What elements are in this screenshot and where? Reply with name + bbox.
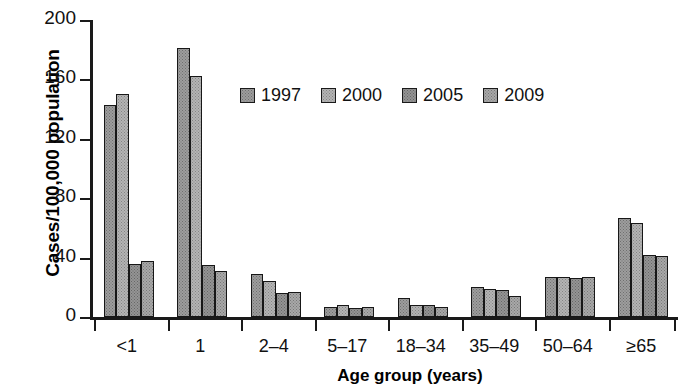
x-tick-mark xyxy=(535,320,537,331)
x-tick-mark xyxy=(609,320,611,331)
bar xyxy=(545,277,558,317)
legend-item-label: 2000 xyxy=(342,86,382,104)
bar xyxy=(177,48,190,317)
x-tick-mark xyxy=(462,320,464,331)
bar xyxy=(570,278,583,317)
y-tick-mark xyxy=(80,258,90,260)
y-tick-label: 200 xyxy=(30,7,76,29)
y-tick-label: 160 xyxy=(30,66,76,88)
legend: 1997200020052009 xyxy=(240,86,544,104)
bar xyxy=(496,290,509,317)
bar xyxy=(656,256,669,317)
legend-item: 2000 xyxy=(321,86,382,104)
bar xyxy=(643,255,656,317)
x-tick-mark xyxy=(315,320,317,331)
legend-item-label: 1997 xyxy=(261,86,301,104)
bar xyxy=(557,277,570,317)
y-tick-mark xyxy=(80,139,90,141)
y-tick-mark xyxy=(80,198,90,200)
y-tick-mark xyxy=(80,317,90,319)
legend-swatch-icon xyxy=(321,88,336,103)
bar xyxy=(484,289,497,317)
y-tick-label: 80 xyxy=(30,185,76,207)
y-tick-label: 40 xyxy=(30,245,76,267)
bar xyxy=(398,298,411,317)
bar xyxy=(104,105,117,317)
bar xyxy=(324,307,337,317)
bar xyxy=(435,307,448,317)
bar xyxy=(471,287,484,317)
y-axis-line xyxy=(90,20,93,318)
bar xyxy=(349,308,362,317)
bar-chart: Cases/100,000 population 04080120160200 … xyxy=(0,0,683,388)
y-tick-label: 120 xyxy=(30,126,76,148)
legend-item-label: 2009 xyxy=(504,86,544,104)
bar xyxy=(582,277,595,317)
bar xyxy=(129,264,142,317)
x-tick-label: 1 xyxy=(195,336,205,357)
y-tick-mark xyxy=(80,20,90,22)
bar xyxy=(362,307,375,317)
bar xyxy=(410,305,423,317)
x-tick-label: 35–49 xyxy=(469,336,519,357)
x-axis-line xyxy=(90,317,678,320)
x-tick-mark xyxy=(168,320,170,331)
bar xyxy=(337,305,350,317)
x-tick-mark xyxy=(241,320,243,331)
x-tick-mark xyxy=(94,320,96,331)
y-axis-title: Cases/100,000 population xyxy=(42,13,64,313)
legend-item-label: 2005 xyxy=(423,86,463,104)
x-tick-mark xyxy=(388,320,390,331)
bar xyxy=(618,218,631,317)
bar xyxy=(631,223,644,317)
x-tick-label: 50–64 xyxy=(543,336,593,357)
legend-swatch-icon xyxy=(483,88,498,103)
x-tick-label: 18–34 xyxy=(396,336,446,357)
x-tick-mark xyxy=(674,320,676,331)
legend-swatch-icon xyxy=(402,88,417,103)
plot-area: 04080120160200 <112–45–1718–3435–4950–64… xyxy=(90,20,678,317)
x-tick-label: 2–4 xyxy=(259,336,289,357)
bar xyxy=(423,305,436,317)
legend-item: 1997 xyxy=(240,86,301,104)
legend-swatch-icon xyxy=(240,88,255,103)
bar xyxy=(190,76,203,317)
bar xyxy=(263,281,276,317)
y-tick-label: 0 xyxy=(30,304,76,326)
x-axis-title: Age group (years) xyxy=(160,366,660,386)
x-tick-label: <1 xyxy=(116,336,137,357)
legend-item: 2005 xyxy=(402,86,463,104)
bar xyxy=(251,274,264,317)
legend-item: 2009 xyxy=(483,86,544,104)
bar xyxy=(215,271,228,317)
bar xyxy=(276,293,289,317)
y-tick-mark xyxy=(80,79,90,81)
bar xyxy=(288,292,301,317)
bar xyxy=(202,265,215,317)
x-tick-label: 5–17 xyxy=(327,336,367,357)
bar xyxy=(141,261,154,317)
bar xyxy=(509,296,522,317)
bar xyxy=(116,94,129,317)
x-tick-label: ≥65 xyxy=(626,336,656,357)
